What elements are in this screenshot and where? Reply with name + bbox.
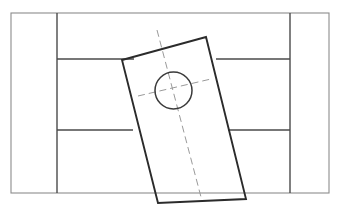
canvas-background	[0, 0, 343, 207]
drawing-svg	[0, 0, 343, 207]
drawing-canvas	[0, 0, 343, 207]
